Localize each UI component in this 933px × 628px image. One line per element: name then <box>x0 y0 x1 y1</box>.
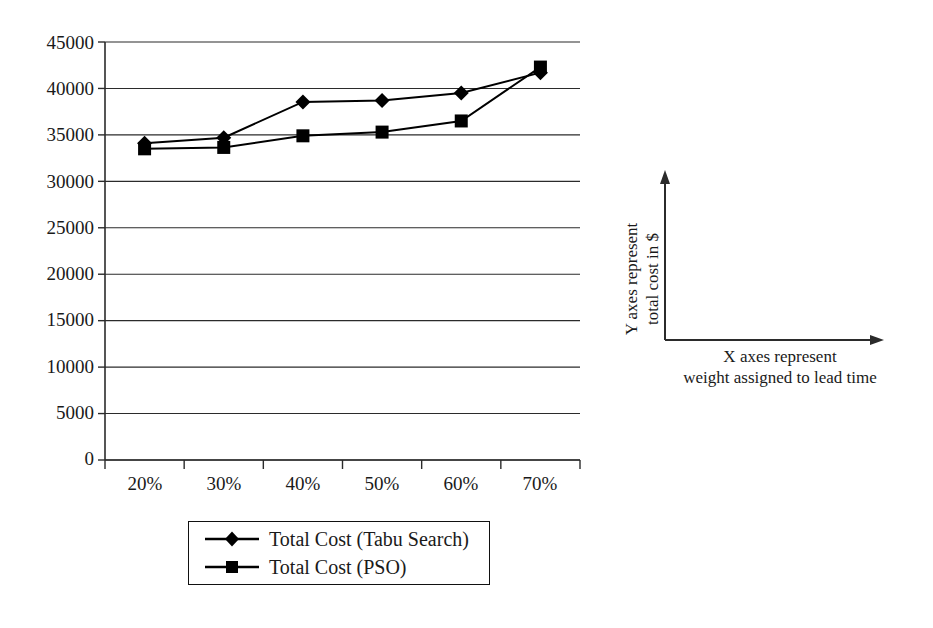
y-axis-tick-label: 10000 <box>32 357 94 376</box>
y-axis-tick-label: 35000 <box>32 125 94 144</box>
data-point-square <box>376 126 389 139</box>
data-point-square <box>296 129 309 142</box>
chart-legend: Total Cost (Tabu Search) Total Cost (PSO… <box>188 521 490 585</box>
y-axis-tick-label: 45000 <box>32 33 94 52</box>
series-line-pso <box>145 67 541 149</box>
axis-explanation-diagram: Y axes represent total cost in $ X axes … <box>600 150 933 410</box>
legend-item-pso: Total Cost (PSO) <box>203 553 407 581</box>
y-axis-tick-label: 0 <box>32 449 94 468</box>
legend-item-tabu-search: Total Cost (Tabu Search) <box>203 525 469 553</box>
legend-label-pso: Total Cost (PSO) <box>261 557 407 577</box>
figure-container: 45000 40000 35000 30000 25000 20000 1500… <box>0 0 933 628</box>
x-axis-tick-label: 50% <box>342 474 422 493</box>
x-axis-tick-label: 70% <box>500 474 580 493</box>
x-axis-note-line1: X axes represent <box>723 347 836 366</box>
data-point-square <box>534 61 547 74</box>
x-axis-tick-label: 20% <box>105 474 185 493</box>
data-point-square <box>217 141 230 154</box>
x-axis-note-label: X axes represent weight assigned to lead… <box>640 346 920 388</box>
y-axis-note-label: Y axes represent total cost in $ <box>621 199 663 359</box>
y-axis-tick-label: 20000 <box>32 264 94 283</box>
y-axis-tick-label: 40000 <box>32 79 94 98</box>
x-axis-tick-label: 60% <box>421 474 501 493</box>
x-axis-tick-label: 40% <box>263 474 343 493</box>
legend-label-tabu-search: Total Cost (Tabu Search) <box>261 529 469 549</box>
x-axis-note-line2: weight assigned to lead time <box>683 368 877 387</box>
square-marker-icon <box>203 557 261 577</box>
data-point-diamond <box>454 86 469 101</box>
data-point-square <box>138 142 151 155</box>
diamond-marker-icon <box>203 529 261 549</box>
y-axis-tick-label: 5000 <box>32 403 94 422</box>
line-chart: 45000 40000 35000 30000 25000 20000 1500… <box>0 0 600 510</box>
data-point-diamond <box>375 93 390 108</box>
y-axis-tick-label: 30000 <box>32 172 94 191</box>
y-axis-note-line1: Y axes represent <box>622 223 641 336</box>
x-axis-tick-label: 30% <box>184 474 264 493</box>
data-point-diamond <box>295 94 310 109</box>
plot-canvas <box>0 0 600 510</box>
y-axis-note-line2: total cost in $ <box>643 233 662 325</box>
y-axis-tick-label: 25000 <box>32 218 94 237</box>
data-point-square <box>455 114 468 127</box>
y-axis-tick-label: 15000 <box>32 310 94 329</box>
